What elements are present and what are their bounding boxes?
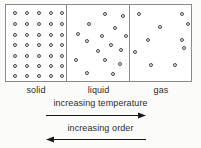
phase-label-liquid: liquid	[67, 84, 130, 97]
particle	[37, 54, 41, 58]
particle	[60, 54, 64, 58]
particle	[49, 64, 53, 68]
particle	[113, 26, 117, 30]
particle	[85, 39, 89, 43]
particle	[37, 11, 41, 15]
particle	[25, 74, 29, 78]
phase-box-liquid	[67, 5, 129, 81]
particle	[186, 22, 190, 26]
particle	[60, 64, 64, 68]
particle	[119, 48, 123, 52]
particle	[60, 33, 64, 37]
arrow-left-icon	[46, 135, 146, 144]
particle	[173, 63, 177, 67]
particle	[85, 71, 89, 75]
particle	[25, 64, 29, 68]
phase-labels-row: solid liquid gas	[5, 84, 192, 97]
states-of-matter-diagram: solid liquid gas increasing temperature …	[0, 0, 201, 148]
particle	[60, 43, 64, 47]
particle	[13, 33, 17, 37]
particle	[158, 25, 162, 29]
particle	[25, 11, 29, 15]
particle	[121, 14, 125, 18]
particle	[149, 63, 153, 67]
particle	[13, 22, 17, 26]
particle	[103, 12, 107, 16]
phase-box-solid	[6, 5, 67, 81]
particle	[37, 43, 41, 47]
particle	[13, 54, 17, 58]
particle	[180, 38, 184, 42]
particle	[49, 33, 53, 37]
particle	[49, 43, 53, 47]
particle	[25, 43, 29, 47]
particle	[25, 33, 29, 37]
particle	[124, 34, 128, 38]
particle	[25, 22, 29, 26]
particle	[25, 54, 29, 58]
particle	[137, 12, 141, 16]
particle	[74, 58, 78, 62]
particle	[37, 22, 41, 26]
phase-label-gas: gas	[130, 84, 192, 97]
order-arrow	[46, 135, 146, 144]
arrow-right-icon	[46, 111, 146, 120]
particle	[37, 74, 41, 78]
temperature-arrow	[46, 111, 146, 120]
particle	[60, 22, 64, 26]
particle	[37, 64, 41, 68]
particle	[60, 11, 64, 15]
particle	[13, 43, 17, 47]
particle	[49, 22, 53, 26]
phase-box-gas	[130, 5, 191, 81]
phase-label-solid: solid	[5, 84, 67, 97]
particle	[49, 74, 53, 78]
particle	[111, 72, 115, 76]
particle	[118, 62, 122, 66]
particle	[103, 58, 107, 62]
particle	[146, 38, 150, 42]
particle	[109, 43, 113, 47]
particle	[13, 74, 17, 78]
increasing-temperature-caption: increasing temperature	[0, 98, 201, 108]
particle	[133, 50, 137, 54]
particle	[87, 22, 91, 26]
particle	[100, 34, 104, 38]
particle	[13, 11, 17, 15]
particle	[49, 54, 53, 58]
phase-boxes-container	[5, 4, 192, 82]
particle	[37, 33, 41, 37]
particle	[49, 11, 53, 15]
particle	[60, 74, 64, 78]
particle	[76, 32, 80, 36]
particle	[13, 64, 17, 68]
particle	[182, 46, 186, 50]
increasing-order-caption: increasing order	[0, 123, 201, 133]
particle	[180, 12, 184, 16]
particle	[96, 49, 100, 53]
